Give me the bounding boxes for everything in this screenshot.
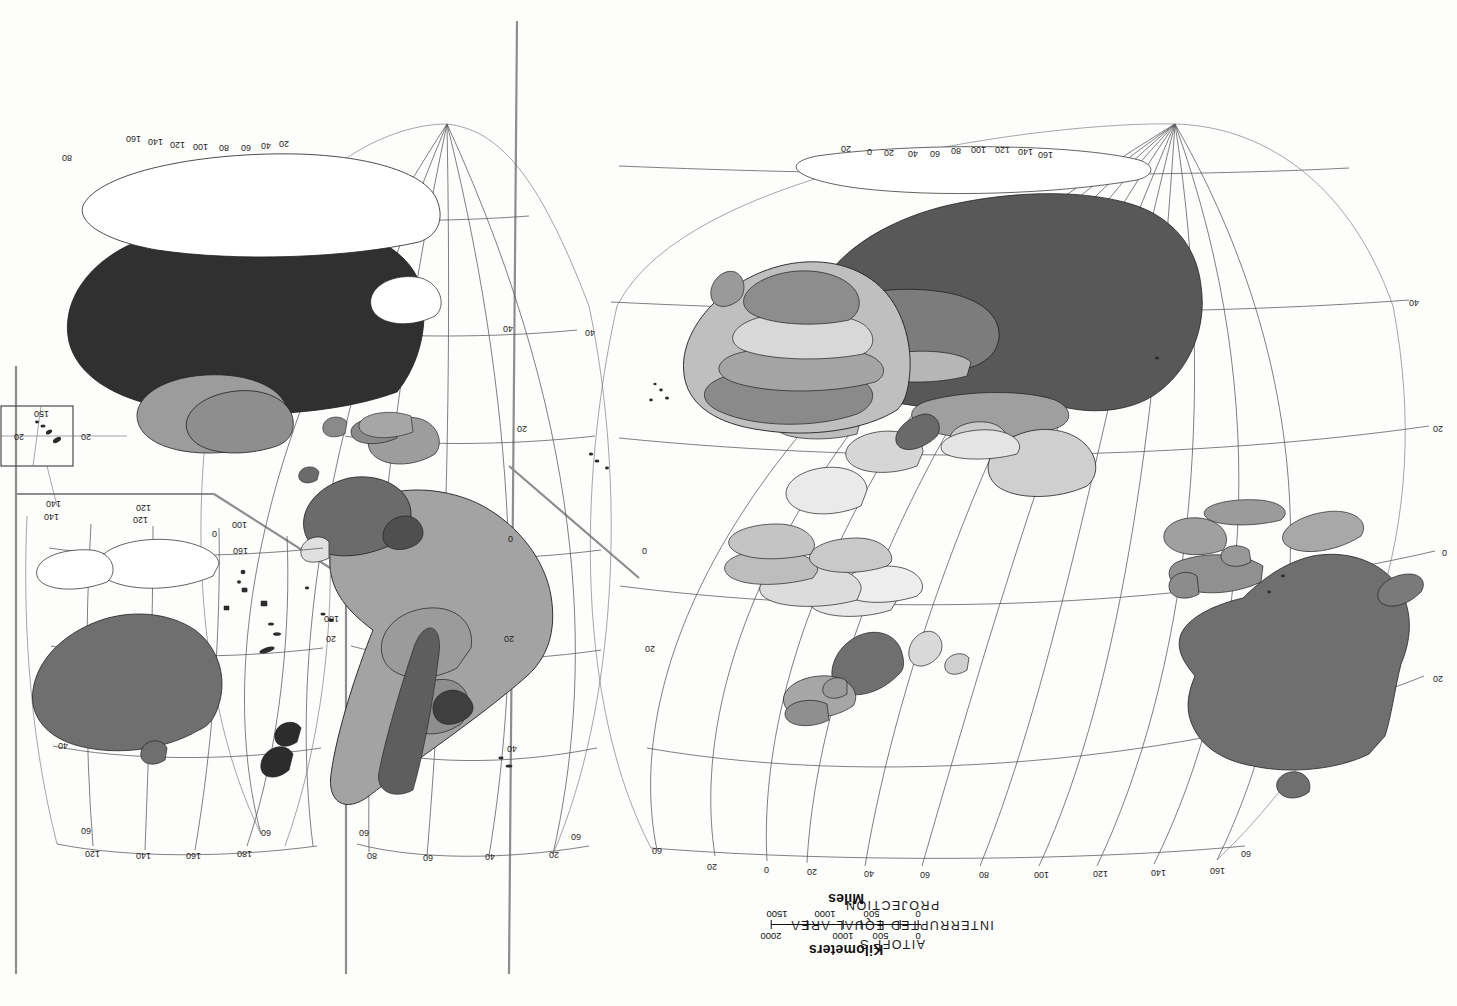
miles-scale-label: Miles (771, 891, 921, 907)
caspian-region (729, 524, 815, 559)
lon-label-120-right: 120 (85, 849, 100, 859)
java (1204, 500, 1285, 525)
pole-lon-160-mid: 160 (126, 134, 141, 144)
kilometers-scale-ticks: 0 500 1000 2000 (771, 929, 921, 942)
uk-ireland (909, 631, 942, 666)
pole-lon-60-left: 60 (930, 149, 940, 159)
lat-label-60-topleft: 60 (1241, 849, 1251, 859)
iceland (945, 654, 969, 675)
italy-balkans (809, 538, 891, 572)
lat-label-0-mid-left: 0 (508, 534, 513, 544)
australia-right-lobe (32, 614, 222, 751)
pole-lon-40-mid: 40 (261, 141, 271, 151)
lon-label-60-mid: 60 (423, 853, 433, 863)
km-tick-500: 500 (873, 931, 889, 942)
map-page: AITOFF'S INTERRUPTED EQUAL-AREA PROJECTI… (0, 0, 1457, 1006)
mi-tick-0: 0 (915, 909, 920, 920)
new-zealand-right-lobe (261, 747, 293, 777)
inset-lat-20-right: 20 (14, 432, 24, 442)
lon-label-40-left: 40 (864, 869, 874, 879)
interior-label-140-right: 140 (44, 512, 59, 522)
pole-lon-80b-mid: 80 (62, 153, 72, 163)
indonesia-right-lobe (97, 539, 219, 588)
pole-lon-80-mid: 80 (219, 143, 229, 153)
inset-lon-150: 150 (34, 409, 49, 419)
interior-label-180: 180 (324, 614, 339, 624)
pole-lon-140-mid: 140 (148, 137, 163, 147)
lon-label-20e-left: 20 (707, 862, 717, 872)
interior-label-100: 100 (232, 520, 247, 530)
lon-label-0-left: 0 (764, 865, 769, 875)
canada (82, 154, 440, 257)
lat-label-40s-leftedge: 40 (1409, 298, 1419, 308)
interior-label-20: 20 (326, 634, 336, 644)
pole-lon-80-left: 80 (951, 146, 961, 156)
sumatra (1283, 511, 1364, 551)
pole-lon-120-mid: 120 (170, 140, 185, 150)
caribbean-islands (323, 417, 347, 437)
lat-label-20s-mid-left: 20 (517, 424, 527, 434)
lon-label-160-left: 160 (1210, 866, 1225, 876)
pole-lon-0-left: 0 (867, 147, 872, 157)
new-guinea-right-lobe (37, 550, 113, 589)
lat-label-0-leftedge: 0 (1442, 548, 1447, 558)
lat-label-40s-mid-left: 40 (503, 324, 513, 334)
pole-lon-20-left: 20 (884, 148, 894, 158)
sulawesi (1221, 546, 1251, 567)
tasmania (1277, 772, 1310, 798)
pole-lon-60-mid: 60 (241, 143, 251, 153)
pole-lon-100-mid: 100 (193, 142, 208, 152)
mi-tick-500: 500 (864, 909, 880, 920)
pole-lon-120-left: 120 (995, 145, 1010, 155)
lon-label-160-right: 160 (186, 851, 201, 861)
saudi-arabia (786, 467, 867, 514)
lat-label-40s-rightedge: 40 (585, 328, 595, 338)
lon-label-140-right: 140 (136, 851, 151, 861)
interior-label-120-right: 120 (133, 515, 148, 525)
map-sheet-rotated-180: AITOFF'S INTERRUPTED EQUAL-AREA PROJECTI… (0, 0, 1457, 1006)
pole-lon-100-left: 100 (971, 145, 986, 155)
km-tick-0: 0 (915, 931, 920, 942)
lon-label-60-left: 60 (920, 870, 930, 880)
lon-label-80-left: 80 (979, 870, 989, 880)
lat-label-60-right-left: 60 (261, 828, 271, 838)
japan (896, 414, 940, 450)
interior-label-120b-right: 120 (136, 503, 151, 513)
pole-lon-20e-left: 20 (841, 144, 851, 154)
borneo (1164, 518, 1227, 555)
interior-label-0: 0 (212, 529, 217, 539)
pole-lon-20-mid: 20 (279, 139, 289, 149)
interior-label-160: 160 (233, 546, 248, 556)
interior-label-140b-right: 140 (46, 499, 61, 509)
mi-tick-1500: 1500 (766, 909, 787, 920)
lon-label-20-mid: 20 (549, 850, 559, 860)
arctic-archipelago (359, 412, 413, 437)
kilometers-scale-label: Kilometers (771, 942, 921, 958)
lon-label-100-left: 100 (1034, 870, 1049, 880)
inset-lat-20-left: 20 (81, 432, 91, 442)
pole-lon-140-left: 140 (1018, 147, 1033, 157)
lon-label-80-mid: 80 (367, 851, 377, 861)
scale-block: Kilometers 0 500 1000 2000 0 500 1000 15… (771, 891, 921, 958)
pole-lon-40-left: 40 (908, 149, 918, 159)
km-tick-2000: 2000 (760, 931, 781, 942)
lat-label-60-mid-left: 60 (571, 832, 581, 842)
lon-label-140-left: 140 (1151, 868, 1166, 878)
lon-label-120-left: 120 (1093, 869, 1108, 879)
lat-label-60-mid-right: 60 (359, 828, 369, 838)
lat-label-40-right: 40 (58, 741, 68, 751)
lon-label-20-left: 20 (807, 867, 817, 877)
new-zealand-south-right-lobe (275, 722, 301, 746)
falklands (299, 467, 319, 483)
lon-label-40-mid: 40 (485, 852, 495, 862)
island-inset-graphic (1, 406, 127, 506)
lat-label-20s-leftedge: 20 (1433, 424, 1443, 434)
right-lobe-landmasses (32, 539, 301, 777)
lat-label-20n-rightedge: 20 (645, 644, 655, 654)
lat-label-60-topright: 60 (652, 846, 662, 856)
km-tick-1000: 1000 (832, 931, 853, 942)
lat-label-20-mid-left: 20 (504, 634, 514, 644)
philippines (1169, 572, 1199, 598)
scale-ruler (771, 920, 921, 929)
lat-label-0-rightedge: 0 (642, 546, 647, 556)
